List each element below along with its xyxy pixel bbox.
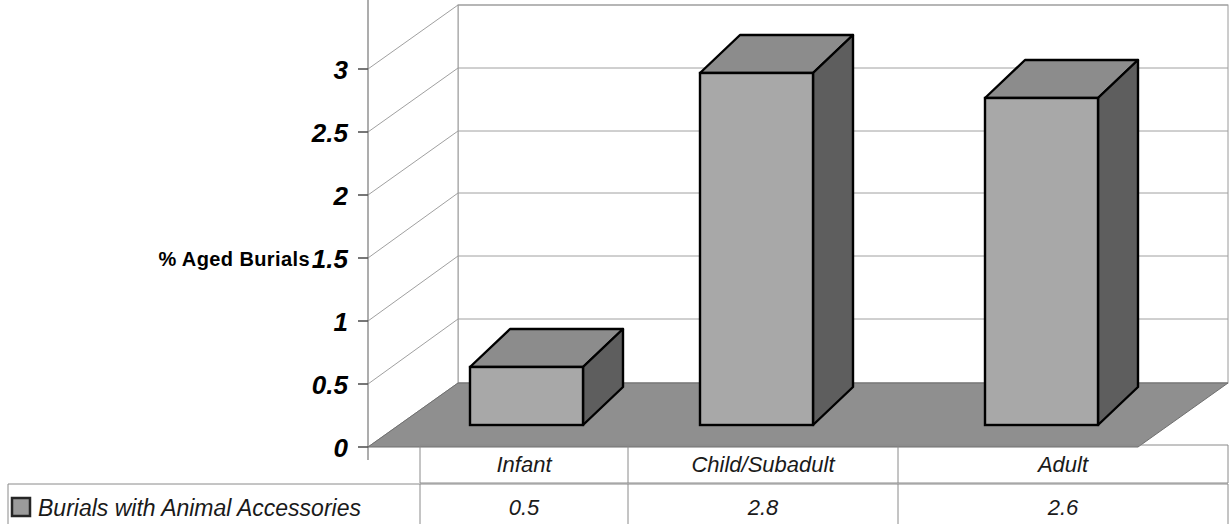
category-label-adult: Adult [1036,452,1089,477]
bar-child-subadult[interactable] [700,35,853,425]
y-axis-ticks [358,69,368,447]
y-tick-label-0: 0 [334,433,349,463]
legend-swatch-icon [12,498,30,516]
y-axis-title: % Aged Burials [158,248,310,270]
legend-series-label: Burials with Animal Accessories [38,495,361,521]
legend-value-row: Burials with Animal Accessories 0.5 2.8 … [8,484,1228,524]
y-tick-label-1: 1 [334,307,348,337]
y-tick-label-2: 2 [333,181,349,211]
chart-container: 3 2.5 2 1.5 1 0.5 0 % Aged Burials [0,0,1232,524]
category-row: Infant Child/Subadult Adult [420,445,1228,483]
y-tick-label-3: 3 [334,55,349,85]
bar-adult[interactable] [985,60,1138,425]
y-tick-label-2.5: 2.5 [311,118,349,148]
left-side-wall [368,0,458,460]
value-cell-child-subadult: 2.8 [747,495,779,520]
y-axis-tick-labels: 3 2.5 2 1.5 1 0.5 0 [311,55,349,463]
category-label-infant: Infant [496,452,552,477]
value-cell-adult: 2.6 [1047,495,1079,520]
category-label-child-subadult: Child/Subadult [691,452,835,477]
bar-chart-3d: 3 2.5 2 1.5 1 0.5 0 % Aged Burials [0,0,1232,524]
y-tick-label-1.5: 1.5 [312,244,349,274]
value-cell-infant: 0.5 [509,495,540,520]
y-tick-label-0.5: 0.5 [312,370,349,400]
